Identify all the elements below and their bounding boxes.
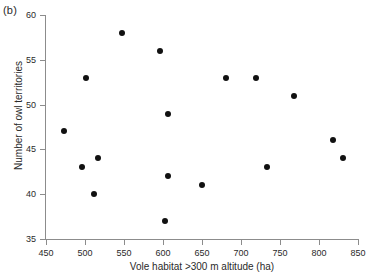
data-point <box>291 93 297 99</box>
x-tick-mark <box>46 240 47 245</box>
x-tick-label: 750 <box>260 248 300 258</box>
data-point <box>223 75 229 81</box>
y-tick-mark <box>40 105 45 106</box>
x-axis-title: Vole habitat >300 m altitude (ha) <box>46 261 358 272</box>
data-point <box>165 111 171 117</box>
y-tick-label: 35 <box>6 235 36 244</box>
x-tick-label: 550 <box>104 248 144 258</box>
x-tick-mark <box>241 240 242 245</box>
x-tick-label: 600 <box>143 248 183 258</box>
x-tick-mark <box>163 240 164 245</box>
x-tick-mark <box>85 240 86 245</box>
x-tick-label: 850 <box>338 248 373 258</box>
x-tick-mark <box>319 240 320 245</box>
x-tick-mark <box>202 240 203 245</box>
data-point <box>165 173 171 179</box>
x-tick-mark <box>124 240 125 245</box>
y-tick-mark <box>40 239 45 240</box>
plot-area <box>46 15 358 239</box>
x-tick-label: 500 <box>65 248 105 258</box>
data-point <box>253 75 259 81</box>
x-tick-label: 450 <box>26 248 66 258</box>
x-tick-mark <box>280 240 281 245</box>
scatter-plot-figure: (b) 354045505560 45050055060065070075080… <box>0 0 373 277</box>
data-point <box>157 48 163 54</box>
y-tick-mark <box>40 194 45 195</box>
x-tick-mark <box>358 240 359 245</box>
data-point <box>83 75 89 81</box>
y-axis-title: Number of owl territories <box>13 26 24 206</box>
x-tick-label: 650 <box>182 248 222 258</box>
x-tick-label: 800 <box>299 248 339 258</box>
y-tick-mark <box>40 60 45 61</box>
y-tick-mark <box>40 149 45 150</box>
y-tick-mark <box>40 15 45 16</box>
x-tick-label: 700 <box>221 248 261 258</box>
y-tick-label: 60 <box>6 11 36 20</box>
